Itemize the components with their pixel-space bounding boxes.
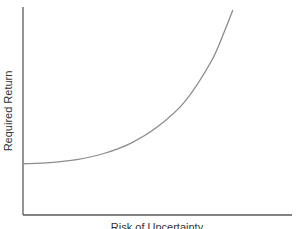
y-axis-label: Required Return (2, 71, 14, 152)
required-return-curve (23, 10, 233, 164)
x-axis-label: Risk of Uncertainty (111, 221, 203, 229)
chart-canvas (0, 0, 297, 229)
